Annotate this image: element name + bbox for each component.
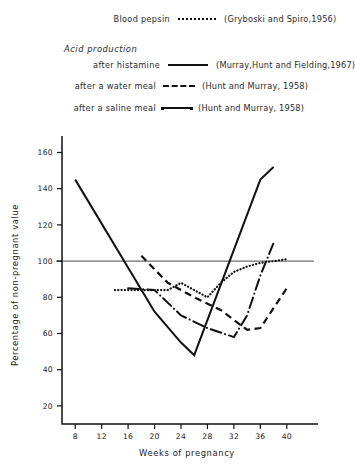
legend-citation-after-saline-meal: (Hunt and Murray, 1958): [198, 103, 304, 113]
x-tick-label: 40: [282, 432, 292, 441]
legend-sample-dash-dot-line-icon: [160, 103, 194, 113]
legend-row-blood-pepsin: Blood pepsin (Gryboski and Spiro,1956): [86, 14, 336, 24]
x-tick-label: 12: [97, 432, 107, 441]
y-tick-label: 160: [38, 148, 53, 157]
legend-label-after-water-meal: after a water meal: [60, 81, 156, 91]
legend: Blood pepsin (Gryboski and Spiro,1956) A…: [0, 0, 329, 124]
chart-plot-area: 2040608010012014016081216202428323640 We…: [0, 124, 329, 475]
legend-sample-dashed-line-icon: [163, 81, 195, 91]
series-line-3: [128, 243, 273, 337]
y-tick-label: 100: [38, 257, 53, 266]
legend-row-after-saline-meal: after a saline meal (Hunt and Murray, 19…: [60, 103, 304, 113]
series-line-0: [115, 259, 287, 297]
legend-citation-after-water-meal: (Hunt and Murray, 1958): [202, 81, 308, 91]
y-tick-label: 80: [43, 293, 53, 302]
x-tick-label: 16: [123, 432, 133, 441]
x-tick-label: 24: [176, 432, 186, 441]
x-tick-label: 20: [149, 432, 159, 441]
axes-group: [62, 136, 318, 424]
y-tick-label: 40: [43, 365, 53, 374]
axis-lines: [62, 136, 318, 424]
y-tick-label: 60: [43, 329, 53, 338]
legend-label-after-histamine: after histamine: [78, 60, 160, 70]
tick-labels-group: 2040608010012014016081216202428323640: [38, 148, 292, 441]
x-tick-label: 28: [202, 432, 212, 441]
tick-marks-group: [57, 152, 287, 429]
legend-citation-after-histamine: (Murray,Hunt and Fielding,1967): [216, 60, 355, 70]
x-tick-label: 32: [229, 432, 239, 441]
y-tick-label: 20: [43, 402, 53, 411]
y-tick-label: 120: [38, 221, 53, 230]
legend-sample-dotted-line-icon: [178, 14, 216, 24]
x-axis-title: Weeks of pregnancy: [139, 448, 235, 458]
legend-label-after-saline-meal: after a saline meal: [60, 103, 156, 113]
legend-sample-solid-line-icon: [168, 60, 208, 70]
legend-label-blood-pepsin: Blood pepsin: [86, 14, 170, 24]
legend-row-after-water-meal: after a water meal (Hunt and Murray, 195…: [60, 81, 308, 91]
y-axis-title: Percentage of non-pregnant value: [10, 204, 20, 366]
legend-citation-blood-pepsin: (Gryboski and Spiro,1956): [224, 14, 336, 24]
x-tick-label: 8: [73, 432, 78, 441]
chart-svg: 2040608010012014016081216202428323640 We…: [0, 124, 329, 475]
legend-row-after-histamine: after histamine (Murray,Hunt and Fieldin…: [78, 60, 355, 70]
y-tick-label: 140: [38, 184, 53, 193]
x-tick-label: 36: [255, 432, 265, 441]
legend-group-header-acid-production: Acid production: [64, 44, 137, 54]
